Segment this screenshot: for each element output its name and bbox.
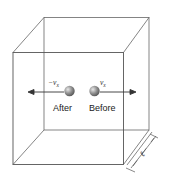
- cube-diagram: −vx vx After Before ℓ: [0, 0, 169, 188]
- velocity-before-arrow: [100, 90, 136, 95]
- molecule-before-ball: [89, 86, 99, 96]
- velocity-before-label: vx: [100, 78, 106, 88]
- velocity-after-label: −vx: [48, 78, 59, 88]
- cube-back-face: [44, 18, 149, 131]
- molecule-after-ball: [64, 86, 74, 96]
- after-label: After: [53, 103, 72, 113]
- velocity-after-arrow: [28, 90, 64, 95]
- cube-figure: −vx vx After Before ℓ: [0, 0, 169, 188]
- before-label: Before: [89, 103, 116, 113]
